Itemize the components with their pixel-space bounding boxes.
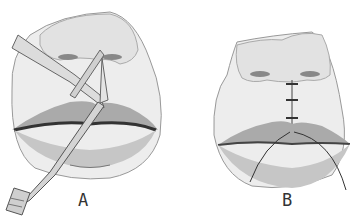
illustration-b [182, 0, 364, 222]
panel-a: A [0, 0, 182, 222]
panel-label-a: A [78, 190, 88, 210]
illustration-a [0, 0, 182, 222]
panel-b: B [182, 0, 364, 222]
panel-label-b: B [282, 190, 292, 210]
